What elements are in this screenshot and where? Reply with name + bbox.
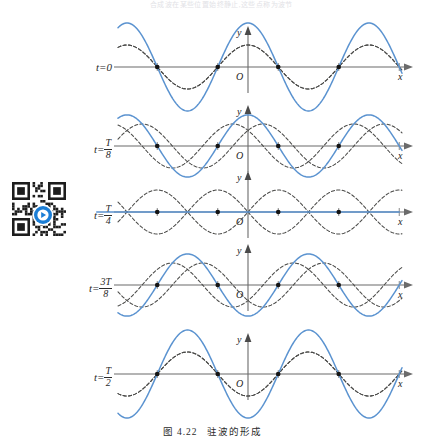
standing-wave-plots: yxOyxOyxOyxOyxO (0, 0, 424, 424)
y-axis-label: y (236, 245, 242, 256)
node-marker (215, 210, 220, 215)
node-marker (336, 283, 341, 288)
x-axis-arrow (404, 371, 413, 378)
node-marker (336, 372, 341, 377)
y-axis-label: y (236, 106, 242, 117)
y-axis-arrow (245, 244, 252, 253)
node-marker (155, 372, 160, 377)
node-marker (215, 283, 220, 288)
figure-caption-text: 驻波的形成 (207, 427, 262, 437)
x-axis-arrow (404, 143, 413, 150)
y-axis-label: y (236, 334, 242, 345)
y-axis-arrow (245, 333, 252, 342)
x-axis-arrow (404, 209, 413, 216)
figure-caption: 图 4.22驻波的形成 (0, 424, 424, 438)
node-marker (276, 65, 281, 70)
y-axis-arrow (245, 105, 252, 114)
node-marker (155, 210, 160, 215)
x-axis-label: x (397, 216, 403, 227)
panel-t-over-8: yxO (114, 105, 413, 177)
node-marker (215, 372, 220, 377)
node-marker (215, 65, 220, 70)
node-marker (276, 372, 281, 377)
x-axis-label: x (397, 150, 403, 161)
y-axis-arrow (245, 171, 252, 180)
node-marker (276, 283, 281, 288)
node-marker (155, 283, 160, 288)
origin-label: O (236, 71, 243, 82)
node-marker (276, 210, 281, 215)
x-axis-label: x (397, 378, 403, 389)
figure-caption-number: 图 4.22 (163, 427, 198, 437)
node-marker (336, 65, 341, 70)
node-marker (215, 144, 220, 149)
figure-standing-wave-formation: 合成波在某些位置始终静止,这些点称为波节 t=0 t=T8 t=T4 t=3T8… (0, 0, 424, 447)
node-marker (276, 144, 281, 149)
origin-label: O (236, 378, 243, 389)
node-marker (336, 144, 341, 149)
x-axis-arrow (404, 64, 413, 71)
node-marker (155, 65, 160, 70)
panel-t-over-2: yxO (114, 330, 413, 418)
x-axis-arrow (404, 282, 413, 289)
panel-3t-over-8: yxO (114, 244, 413, 316)
panel-t0: yxO (114, 23, 413, 111)
panel-t-over-4: yxO (97, 171, 413, 238)
y-axis-arrow (245, 26, 252, 35)
y-axis-label: y (236, 172, 242, 183)
node-marker (336, 210, 341, 215)
node-marker (155, 144, 160, 149)
origin-label: O (236, 150, 243, 161)
